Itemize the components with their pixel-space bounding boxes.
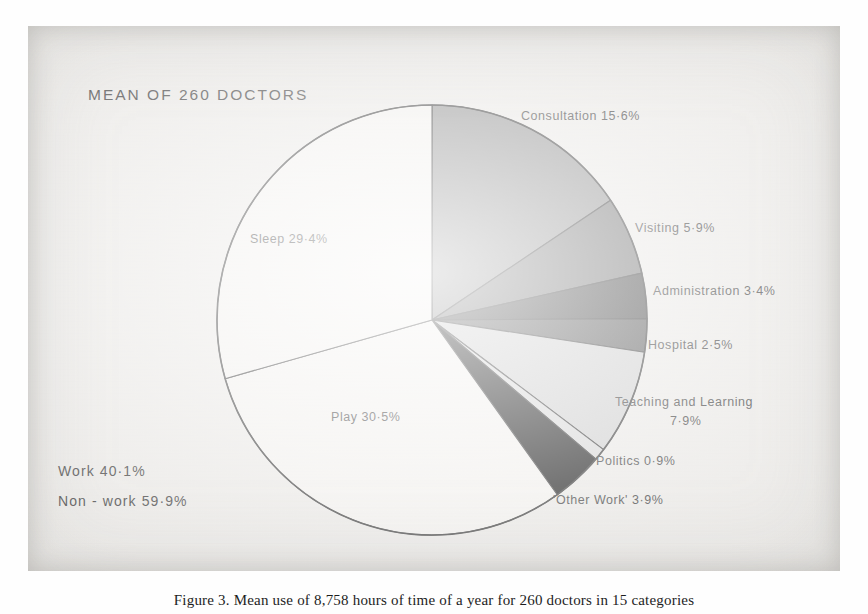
figure-caption: Figure 3. Mean use of 8,758 hours of tim… [0,592,868,609]
pie-chart [28,26,840,571]
slice-label-sleep: Sleep 29·4% [250,232,328,246]
slice-label-visiting: Visiting 5·9% [635,221,715,235]
slice-label-administration: Administration 3·4% [653,284,775,298]
summary-label-non-work: Non - work 59·9% [58,493,188,509]
slice-label-play: Play 30·5% [331,410,400,424]
slice-label-hospital: Hospital 2·5% [648,338,733,352]
chart-title: MEAN OF 260 DOCTORS [88,86,308,104]
slice-label-other-work: 'Other Work' 3·9% [553,493,663,507]
slice-label-teaching-and-learning: Teaching and Learning 7·9% [615,393,805,431]
summary-label-work: Work 40·1% [58,463,146,479]
scanned-figure-plate: MEAN OF 260 DOCTORS Consultation 15·6% V… [28,26,840,571]
slice-label-politics: Politics 0·9% [596,454,675,468]
slice-label-consultation: Consultation 15·6% [521,109,640,123]
plate-inner: MEAN OF 260 DOCTORS Consultation 15·6% V… [28,26,840,571]
pie-slices [217,105,647,535]
page: MEAN OF 260 DOCTORS Consultation 15·6% V… [0,0,868,614]
slice-label-teaching-line2: 7·9% [615,412,805,431]
slice-label-teaching-line1: Teaching and Learning [615,395,753,409]
